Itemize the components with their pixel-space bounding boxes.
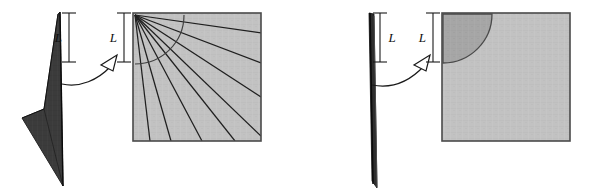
dimension-label-L: L bbox=[109, 30, 117, 45]
patch-square bbox=[442, 13, 570, 141]
dimension-label-L: L bbox=[418, 30, 426, 45]
figure-root: L L bbox=[0, 0, 590, 196]
dimension-label-L: L bbox=[54, 30, 62, 45]
patch-square bbox=[133, 13, 261, 141]
paper-fold-figure: L L bbox=[0, 0, 590, 196]
dimension-label-L: L bbox=[387, 30, 395, 45]
